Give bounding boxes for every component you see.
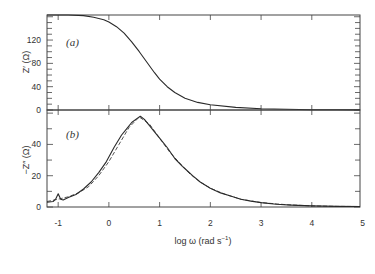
fit-curve [47,117,360,207]
x-axis-label: log ω (rad s−1) [175,235,232,246]
x-tick-label: 4 [309,218,314,228]
plot-frame [47,15,360,110]
panel-a-label: (a) [66,36,79,49]
y-tick-label: 80 [32,58,42,68]
x-tick-label: 2 [208,218,213,228]
x-tick-label: 0 [107,218,112,228]
x-tick-label: -1 [54,218,62,228]
panel-b-ylabel: −Z″ (Ω) [21,145,31,174]
panel-a: 04080120 [27,15,360,115]
panel-b-label: (b) [66,128,79,141]
y-tick-label: 0 [36,105,41,115]
y-tick-label: 40 [32,82,42,92]
impedance-chart: 04080120 02040-1012345 Z′ (Ω) −Z″ (Ω) (a… [0,0,375,274]
data-curve [47,116,360,206]
y-tick-label: 20 [32,171,42,181]
panel-b: 02040-1012345 [32,110,366,228]
data-curve [47,15,360,110]
x-tick-label: 1 [157,218,162,228]
panel-a-ylabel: Z′ (Ω) [21,51,31,73]
plot-frame [47,110,360,207]
y-tick-label: 40 [32,139,42,149]
x-tick-label: 5 [360,218,365,228]
x-tick-label: 3 [259,218,264,228]
y-tick-label: 120 [27,35,41,45]
y-tick-label: 0 [36,202,41,212]
